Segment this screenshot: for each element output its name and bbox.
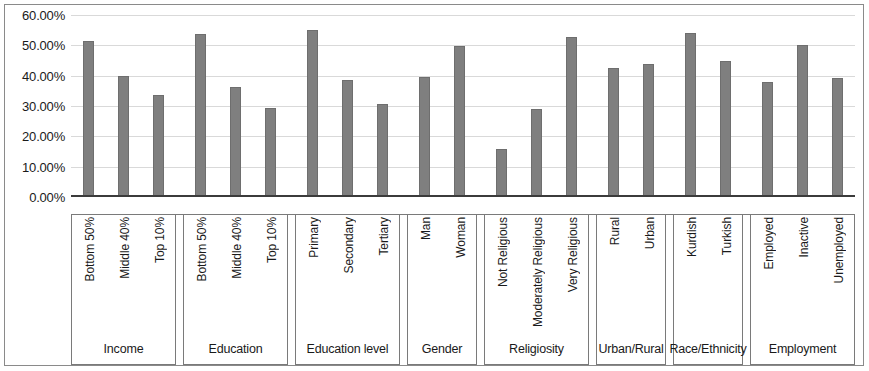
category-label: Secondary bbox=[342, 217, 356, 273]
group-cell: Urban/Rural bbox=[596, 333, 666, 365]
category-label: Unemployed bbox=[832, 217, 846, 283]
plot-area-wrapper: 0.00%10.00%20.00%30.00%40.00%50.00%60.00… bbox=[5, 5, 863, 205]
bar bbox=[230, 87, 241, 197]
bar bbox=[762, 82, 773, 197]
category-label: Middle 40% bbox=[118, 217, 132, 279]
bars-container bbox=[71, 15, 855, 197]
bar-group bbox=[407, 15, 477, 197]
bar bbox=[265, 108, 276, 197]
y-axis: 0.00%10.00%20.00%30.00%40.00%50.00%60.00… bbox=[5, 15, 69, 197]
category-label: Inactive bbox=[797, 217, 811, 258]
category-cell: Bottom 50%Middle 40%Top 10% bbox=[183, 215, 288, 333]
category-label: Tertiary bbox=[377, 217, 391, 256]
category-label-band: Bottom 50%Middle 40%Top 10%Bottom 50%Mid… bbox=[71, 215, 855, 333]
group-label: Gender bbox=[422, 342, 463, 356]
group-label: Religiosity bbox=[509, 342, 564, 356]
y-axis-tick-label: 0.00% bbox=[29, 190, 65, 205]
y-axis-tick-label: 60.00% bbox=[22, 8, 65, 23]
bar-group bbox=[596, 15, 666, 197]
bar bbox=[377, 104, 388, 197]
chart-frame: 0.00%10.00%20.00%30.00%40.00%50.00%60.00… bbox=[4, 4, 864, 366]
bar bbox=[419, 77, 430, 197]
bar-group bbox=[71, 15, 176, 197]
bar bbox=[195, 34, 206, 197]
bar bbox=[118, 76, 129, 197]
category-label: Rural bbox=[608, 217, 622, 245]
bar-group bbox=[673, 15, 743, 197]
category-label: Urban bbox=[643, 217, 657, 249]
group-label: Urban/Rural bbox=[598, 342, 663, 356]
category-label: Bottom 50% bbox=[195, 217, 209, 281]
category-label: Man bbox=[419, 217, 433, 240]
category-label: Top 10% bbox=[153, 217, 167, 263]
category-cell: EmployedInactiveUnemployed bbox=[750, 215, 855, 333]
category-cell: RuralUrban bbox=[596, 215, 666, 333]
y-axis-tick-label: 20.00% bbox=[22, 129, 65, 144]
group-cell: Education level bbox=[295, 333, 400, 365]
group-cell: Religiosity bbox=[484, 333, 589, 365]
bar bbox=[797, 45, 808, 197]
group-label: Education bbox=[209, 342, 263, 356]
y-axis-tick-label: 30.00% bbox=[22, 99, 65, 114]
category-label: Top 10% bbox=[265, 217, 279, 263]
bar-group bbox=[183, 15, 288, 197]
bar bbox=[153, 95, 164, 197]
group-cell: Gender bbox=[407, 333, 477, 365]
x-axis-baseline bbox=[71, 195, 855, 197]
category-label: Primary bbox=[307, 217, 321, 258]
category-label: Not Religious bbox=[496, 217, 510, 287]
category-cell: PrimarySecondaryTertiary bbox=[295, 215, 400, 333]
bar bbox=[566, 37, 577, 197]
bar bbox=[342, 80, 353, 197]
y-axis-tick-label: 40.00% bbox=[22, 68, 65, 83]
category-cell: Bottom 50%Middle 40%Top 10% bbox=[71, 215, 176, 333]
group-label: Education level bbox=[307, 342, 389, 356]
bar bbox=[685, 33, 696, 197]
category-label: Turkish bbox=[720, 217, 734, 255]
bar bbox=[496, 149, 507, 197]
category-cell: Not ReligiousModerately ReligiousVery Re… bbox=[484, 215, 589, 333]
group-cell: Income bbox=[71, 333, 176, 365]
bar bbox=[531, 109, 542, 197]
plot-area bbox=[71, 15, 855, 197]
category-cell: ManWoman bbox=[407, 215, 477, 333]
group-label: Income bbox=[104, 342, 144, 356]
bar bbox=[720, 61, 731, 197]
category-label: Kurdish bbox=[685, 217, 699, 257]
y-axis-tick-label: 50.00% bbox=[22, 38, 65, 53]
bar bbox=[643, 64, 654, 197]
group-label-band: IncomeEducationEducation levelGenderReli… bbox=[71, 333, 855, 365]
bar-group bbox=[295, 15, 400, 197]
bar bbox=[307, 30, 318, 197]
category-label: Woman bbox=[454, 217, 468, 258]
bar-group bbox=[484, 15, 589, 197]
category-label: Middle 40% bbox=[230, 217, 244, 279]
category-label: Bottom 50% bbox=[83, 217, 97, 281]
category-label: Moderately Religious bbox=[531, 217, 545, 327]
group-cell: Employment bbox=[750, 333, 855, 365]
bar bbox=[83, 41, 94, 197]
group-label: Employment bbox=[769, 342, 836, 356]
y-axis-tick-label: 10.00% bbox=[22, 159, 65, 174]
group-cell: Race/Ethnicity bbox=[673, 333, 743, 365]
category-cell: KurdishTurkish bbox=[673, 215, 743, 333]
bar bbox=[832, 78, 843, 198]
category-label: Employed bbox=[762, 217, 776, 270]
category-label: Very Religious bbox=[566, 217, 580, 292]
group-label: Race/Ethnicity bbox=[669, 342, 746, 356]
bar-group bbox=[750, 15, 855, 197]
bar bbox=[608, 68, 619, 197]
bar bbox=[454, 46, 465, 197]
group-cell: Education bbox=[183, 333, 288, 365]
